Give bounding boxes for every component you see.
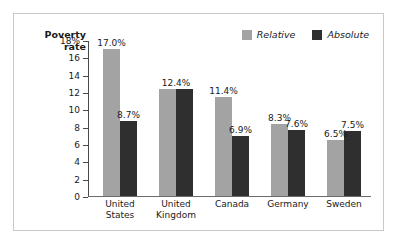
y-tick-mark <box>83 128 88 129</box>
bar-pair <box>207 40 257 196</box>
y-tick-mark <box>83 93 88 94</box>
bar-absolute[interactable] <box>288 130 305 196</box>
bar-pair <box>319 40 369 196</box>
bar-relative[interactable] <box>159 89 176 196</box>
y-tick-mark <box>83 162 88 163</box>
bar-value-label-absolute: 7.5% <box>341 120 364 130</box>
bar-absolute[interactable] <box>232 136 249 196</box>
bar-group: 17.0%8.7%United States <box>95 40 145 196</box>
plot-area: 18%1614121086420 17.0%8.7%United States1… <box>88 41 371 223</box>
x-category-label: United Kingdom <box>156 199 196 221</box>
bar-group: 11.4%6.9%Canada <box>207 40 257 196</box>
x-category-label: Germany <box>267 199 308 210</box>
bar-absolute[interactable] <box>344 131 361 196</box>
y-tick-label: 12 <box>69 88 80 98</box>
y-tick-label: 4 <box>74 157 80 167</box>
bar-value-label-relative: 11.4% <box>209 86 238 96</box>
bar-value-label-absolute: 8.7% <box>117 110 140 120</box>
bar-relative[interactable] <box>103 49 120 196</box>
y-tick-label: 18% <box>60 36 80 46</box>
bar-value-label-absolute: 7.6% <box>285 119 308 129</box>
bar-absolute[interactable] <box>120 121 137 196</box>
y-tick-label: 2 <box>74 175 80 185</box>
y-tick-label: 6 <box>74 140 80 150</box>
y-tick-label: 10 <box>69 105 80 115</box>
legend-swatch-absolute <box>312 30 322 40</box>
y-tick-label: 0 <box>74 192 80 202</box>
bar-relative[interactable] <box>271 124 288 196</box>
x-axis-line <box>88 196 371 197</box>
y-tick-label: 14 <box>69 71 80 81</box>
chart-figure: Poverty rate Relative Absolute 18%161412… <box>13 13 384 231</box>
bar-group: 6.5%7.5%Sweden <box>319 40 369 196</box>
legend-label-absolute: Absolute <box>327 29 369 40</box>
bar-value-label-absolute: 6.9% <box>229 125 252 135</box>
legend-label-relative: Relative <box>257 29 296 40</box>
bar-value-label-relative: 17.0% <box>97 38 126 48</box>
x-category-label: Canada <box>215 199 249 210</box>
legend-item-absolute[interactable]: Absolute <box>312 29 369 40</box>
bar-value-label-relative: 6.5% <box>324 129 347 139</box>
y-tick-mark <box>83 76 88 77</box>
y-tick-mark <box>83 41 88 42</box>
bar-pair <box>151 40 201 196</box>
y-tick-label: 8 <box>74 123 80 133</box>
y-tick-mark <box>83 110 88 111</box>
bar-relative[interactable] <box>215 97 232 196</box>
y-tick-label: 16 <box>69 53 80 63</box>
bar-absolute[interactable] <box>176 89 193 196</box>
bar-group: 12.4%United Kingdom <box>151 40 201 196</box>
chart-legend: Relative Absolute <box>242 29 369 40</box>
bar-group: 8.3%7.6%Germany <box>263 40 313 196</box>
y-tick-mark <box>83 197 88 198</box>
y-axis-line <box>88 41 89 197</box>
legend-item-relative[interactable]: Relative <box>242 29 296 40</box>
x-category-label: Sweden <box>326 199 362 210</box>
x-category-label: United States <box>105 199 135 221</box>
legend-swatch-relative <box>242 30 252 40</box>
y-tick-mark <box>83 180 88 181</box>
bar-relative[interactable] <box>327 140 344 196</box>
y-tick-mark <box>83 145 88 146</box>
bar-value-label-merged: 12.4% <box>162 78 191 88</box>
y-tick-mark <box>83 58 88 59</box>
